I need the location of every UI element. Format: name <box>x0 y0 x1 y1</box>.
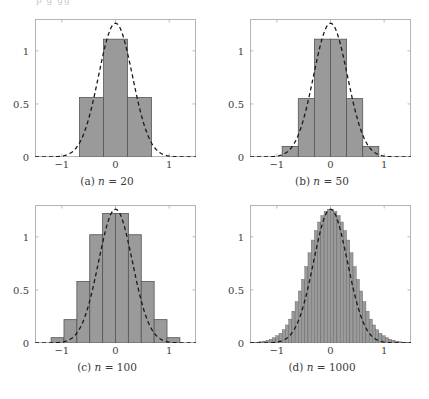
x-axis-labels-b: −101 <box>250 159 411 175</box>
x-tick-label: 1 <box>381 159 387 170</box>
x-tick-label: 0 <box>327 159 333 170</box>
subplot-caption-c: (c) n = 100 <box>0 361 214 373</box>
x-tick-label: −1 <box>54 159 69 170</box>
plot-area-b <box>250 19 411 157</box>
y-tick-label: 0.5 <box>13 284 29 295</box>
y-tick-label: 0 <box>23 152 29 163</box>
x-tick-label: −1 <box>269 345 284 356</box>
plot-canvas-c <box>35 205 196 343</box>
y-tick-label: 0 <box>238 338 244 349</box>
y-tick-label: 0.5 <box>13 98 29 109</box>
figure-page: p g gg 00.51 −101 (a) n = 20 00.51 −101 … <box>0 0 429 399</box>
y-axis-labels-c: 00.51 <box>0 205 33 343</box>
x-axis-labels-a: −101 <box>35 159 196 175</box>
y-tick-label: 0.5 <box>228 284 244 295</box>
x-tick-label: 1 <box>166 345 172 356</box>
x-tick-label: −1 <box>269 159 284 170</box>
subplot-caption-b: (b) n = 50 <box>215 175 429 187</box>
subplot-caption-a: (a) n = 20 <box>0 175 214 187</box>
x-axis-labels-c: −101 <box>35 345 196 361</box>
subplot-panel-a: 00.51 −101 (a) n = 20 <box>0 9 214 204</box>
y-axis-labels-d: 00.51 <box>215 205 248 343</box>
plot-canvas-d <box>250 205 411 343</box>
clipped-header-label: p g gg <box>36 0 71 5</box>
y-tick-label: 1 <box>238 45 244 56</box>
x-tick-label: 1 <box>381 345 387 356</box>
x-tick-label: −1 <box>54 345 69 356</box>
histogram-figure-grid: 00.51 −101 (a) n = 20 00.51 −101 (b) n =… <box>0 9 429 399</box>
plot-area-c <box>35 205 196 343</box>
y-tick-label: 0.5 <box>228 98 244 109</box>
plot-canvas-a <box>35 19 196 157</box>
y-axis-labels-b: 00.51 <box>215 19 248 157</box>
x-axis-labels-d: −101 <box>250 345 411 361</box>
y-axis-labels-a: 00.51 <box>0 19 33 157</box>
y-tick-label: 0 <box>238 152 244 163</box>
x-tick-label: 1 <box>166 159 172 170</box>
y-tick-label: 0 <box>23 338 29 349</box>
clipped-header-text: p g gg <box>0 0 429 9</box>
subplot-panel-b: 00.51 −101 (b) n = 50 <box>215 9 429 204</box>
plot-area-d <box>250 205 411 343</box>
y-tick-label: 1 <box>23 231 29 242</box>
subplot-caption-d: (d) n = 1000 <box>215 361 429 373</box>
subplot-panel-c: 00.51 −101 (c) n = 100 <box>0 195 214 390</box>
x-tick-label: 0 <box>327 345 333 356</box>
x-tick-label: 0 <box>112 345 118 356</box>
x-tick-label: 0 <box>112 159 118 170</box>
subplot-panel-d: 00.51 −101 (d) n = 1000 <box>215 195 429 390</box>
y-tick-label: 1 <box>238 231 244 242</box>
plot-canvas-b <box>250 19 411 157</box>
y-tick-label: 1 <box>23 45 29 56</box>
plot-area-a <box>35 19 196 157</box>
